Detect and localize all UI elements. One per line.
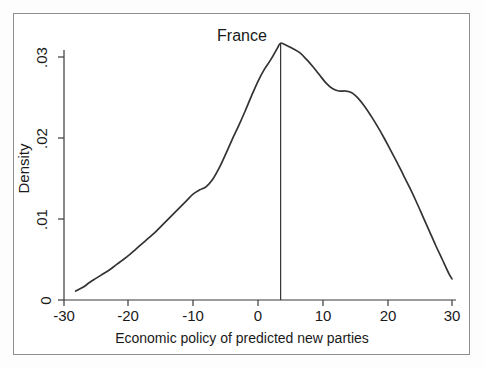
density-curve — [76, 43, 452, 291]
y-tick-marks — [58, 57, 64, 300]
plot-area — [0, 0, 484, 368]
chart-figure: France Density Economic policy of predic… — [0, 0, 484, 368]
x-tick-marks — [64, 300, 452, 306]
